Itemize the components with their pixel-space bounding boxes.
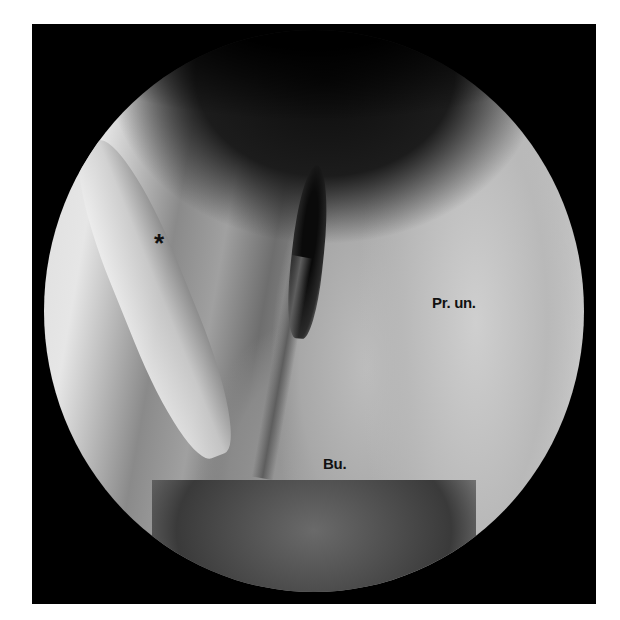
- mucosal-fold: [251, 255, 311, 480]
- lower-shadow: [152, 480, 476, 592]
- endoscopic-view: [44, 30, 584, 592]
- label-bulla: Bu.: [323, 455, 346, 472]
- asterisk-marker: *: [154, 230, 164, 256]
- image-frame: [32, 24, 596, 604]
- bright-left-band: [59, 130, 250, 469]
- label-processus-uncinatus: Pr. un.: [432, 294, 476, 311]
- dark-upper-region: [44, 30, 584, 154]
